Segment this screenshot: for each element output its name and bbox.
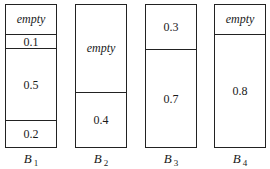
bin-b3-item-0.3: 0.3 [146, 5, 196, 49]
bin-b1-item-0.2: 0.2 [6, 120, 56, 148]
bin-b4-label-sub: 4 [243, 158, 248, 168]
bin-b4-label: B4 [214, 151, 266, 168]
bin-b4-empty-segment: empty [215, 5, 265, 34]
bin-b1: empty 0.1 0.5 0.2 [5, 4, 57, 148]
bin-b1-label-name: B [24, 151, 32, 166]
bin-b2-label-name: B [94, 151, 102, 166]
bin-b1-item-0.5: 0.5 [6, 48, 56, 121]
bin-b1-empty-segment: empty [6, 5, 56, 34]
bin-b3-label: B3 [145, 151, 197, 168]
bin-b2-label: B2 [75, 151, 127, 168]
bin-b1-label: B1 [5, 151, 57, 168]
bin-b4-label-name: B [233, 151, 241, 166]
bin-b2: empty 0.4 [75, 4, 127, 148]
bin-b3: 0.3 0.7 [145, 4, 197, 148]
bin-b1-item-0.1: 0.1 [6, 34, 56, 49]
bin-b3-label-sub: 3 [174, 158, 179, 168]
bin-b2-item-0.4: 0.4 [76, 92, 126, 148]
bin-b4-item-0.8: 0.8 [215, 34, 265, 148]
bin-b2-label-sub: 2 [104, 158, 109, 168]
bin-b4: empty 0.8 [214, 4, 266, 148]
bin-b2-empty-segment: empty [76, 5, 126, 92]
bin-b3-item-0.7: 0.7 [146, 49, 196, 148]
bin-b1-label-sub: 1 [34, 158, 39, 168]
bin-b3-label-name: B [164, 151, 172, 166]
